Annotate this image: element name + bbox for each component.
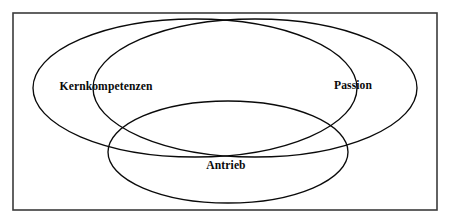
label-antrieb: Antrieb: [206, 159, 245, 172]
venn-diagram-figure: Kernkompetenzen Passion Antrieb: [0, 0, 453, 223]
label-kernkompetenzen: Kernkompetenzen: [60, 80, 153, 93]
diagram-border: [13, 13, 437, 210]
label-passion: Passion: [334, 79, 373, 92]
venn-diagram-canvas: Kernkompetenzen Passion Antrieb: [0, 0, 453, 223]
